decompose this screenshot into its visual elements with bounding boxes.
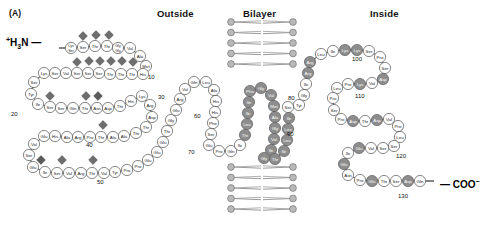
residue-label: Tyr xyxy=(112,170,119,175)
residue-label: His xyxy=(212,110,219,115)
residue-label: Ser xyxy=(208,132,215,137)
residue-label: Pro xyxy=(135,164,142,169)
residue-label: Asp xyxy=(404,179,412,184)
residue-position-number: 120 xyxy=(396,153,406,159)
residue-label: Asp xyxy=(373,118,381,123)
residue-label: His xyxy=(128,99,135,104)
residue-label: Ser xyxy=(74,71,81,76)
glycan-diamond-icon xyxy=(96,57,105,66)
residue-label: Arg xyxy=(307,60,314,65)
residue-label: Ser xyxy=(26,153,33,158)
residue-label: Thr xyxy=(89,171,96,176)
residue-label: Gly xyxy=(258,86,265,91)
residue-label: Thr xyxy=(107,72,114,77)
residue-label: Lys xyxy=(342,48,349,53)
residue-label: Ile xyxy=(331,49,336,54)
residue-label: Ser xyxy=(68,49,74,53)
residue-label: Val xyxy=(182,87,188,92)
residue-label: Lys xyxy=(139,94,146,99)
residue-label: Arg xyxy=(177,97,184,102)
residue-label: Glu xyxy=(160,140,167,145)
residue-label: Gln xyxy=(228,149,235,154)
residue-label: Thr xyxy=(82,106,89,111)
residue-label: Ile xyxy=(246,111,251,116)
residue-position-number: 50 xyxy=(97,179,104,185)
residue-label: Arg xyxy=(78,171,85,176)
residue-position-number: 130 xyxy=(398,193,408,199)
residue-group: LysSerSerThrThrGlyGlyValAlaMetHisThrThrT… xyxy=(23,40,425,186)
residue-label: Ile xyxy=(269,148,274,153)
residue-label: Lys xyxy=(357,82,364,87)
residue-label: Pro xyxy=(357,178,364,183)
residue-label: Ser xyxy=(393,179,400,184)
residue-label: Asp xyxy=(148,115,156,120)
residue-label: Ser xyxy=(96,71,103,76)
residue-label: Ala xyxy=(64,135,71,140)
glycan-diamond-icon xyxy=(85,57,94,66)
lipid-head xyxy=(290,61,297,68)
lipid-head xyxy=(228,206,235,213)
residue-position-number: 90 xyxy=(287,131,294,137)
residue-label: Phe xyxy=(209,121,217,126)
protein-topology-diagram: LysSerSerThrThrGlyGlyValAlaMetHisThrThrT… xyxy=(0,0,484,227)
residue-label: Ser xyxy=(331,108,338,113)
residue-label: Thr xyxy=(362,119,369,124)
residue-label: Ile xyxy=(43,170,48,175)
residue-label: Gly xyxy=(301,93,308,98)
residue-label: Glu xyxy=(154,150,161,155)
lipid-head xyxy=(290,29,297,36)
residue-label: Pro xyxy=(216,149,223,154)
residue-label: Leu xyxy=(283,138,291,143)
residue-label: Leu xyxy=(333,86,341,91)
residue-position-number: 80 xyxy=(288,95,295,101)
glycan-diamond-icon xyxy=(118,57,127,66)
residue-label: Val xyxy=(386,117,392,122)
residue-label: Thr xyxy=(164,129,171,134)
residue-label: Met xyxy=(270,104,278,109)
residue-label: Val xyxy=(63,71,69,76)
residue-label: Ser xyxy=(52,71,59,76)
glycan-diamond-icon xyxy=(92,31,101,40)
residue-label: Ile xyxy=(247,100,252,105)
residue-label: Ala xyxy=(272,115,279,120)
residue-label: Val xyxy=(101,171,107,176)
residue-label: Glu xyxy=(369,179,376,184)
residue-label: Thr xyxy=(129,72,136,77)
lipid-head xyxy=(290,185,297,192)
residue-label: Lys xyxy=(354,48,361,53)
residue-label: Thr xyxy=(92,44,99,49)
residue-label: Ser xyxy=(285,105,292,110)
lipid-head xyxy=(228,29,235,36)
residue-label: Ser xyxy=(47,105,54,110)
residue-label: Leu xyxy=(243,122,251,127)
residue-label: Phe xyxy=(246,89,254,94)
residue-label: Gly xyxy=(168,118,175,123)
lipid-head xyxy=(228,195,235,202)
residue-label: Thr xyxy=(272,157,279,162)
lipid-head xyxy=(290,40,297,47)
glycan-diamond-icon xyxy=(79,32,88,41)
residue-label: Leu xyxy=(396,135,404,140)
residue-label: Ser xyxy=(391,144,398,149)
residue-label: Glu xyxy=(41,134,48,139)
residue-label: Ser xyxy=(54,171,61,176)
residue-label: Thr xyxy=(381,179,388,184)
residue-label: Glu xyxy=(173,108,180,113)
residue-label: Val xyxy=(368,146,374,151)
residue-label: Arg xyxy=(75,135,82,140)
residue-label: Thr xyxy=(242,133,249,138)
residue-label: Pro xyxy=(377,55,384,60)
residue-label: Thr xyxy=(104,44,111,49)
residue-label: Val xyxy=(66,171,72,176)
residue-label: Pro xyxy=(124,168,131,173)
glycan-diamond-icon xyxy=(82,92,91,101)
residue-label: Gly xyxy=(261,156,268,161)
residue-label: Ile xyxy=(304,82,309,87)
residue-label: Arg xyxy=(147,103,154,108)
residue-label: Asp xyxy=(349,119,357,124)
residue-label: Thr xyxy=(133,131,140,136)
residue-label: Ile xyxy=(238,143,243,148)
residue-label: Tyr xyxy=(296,103,303,108)
residue-label: Glu xyxy=(341,162,348,167)
lipid-head xyxy=(228,174,235,181)
